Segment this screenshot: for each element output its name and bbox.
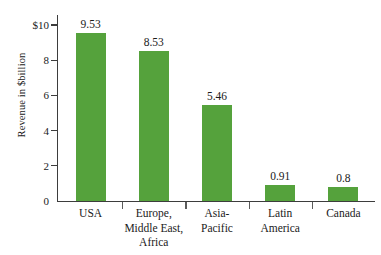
bar-value-label: 0.8 xyxy=(313,172,373,184)
bar xyxy=(265,185,295,201)
y-axis-tick-label: $10 xyxy=(3,20,49,31)
x-axis-category-label: USA xyxy=(59,206,122,221)
y-axis-line xyxy=(57,15,58,202)
bar-value-label: 8.53 xyxy=(124,36,184,48)
y-axis-tick-label: 0 xyxy=(3,196,49,207)
y-axis-tick xyxy=(51,60,57,61)
x-axis-category-label: Europe, Middle East, Africa xyxy=(122,206,185,250)
y-axis-tick xyxy=(51,165,57,166)
bar xyxy=(76,33,106,201)
bar xyxy=(139,51,169,201)
x-axis-category-label: Asia- Pacific xyxy=(185,206,248,235)
y-axis-tick-label: 2 xyxy=(3,160,49,171)
bar-value-label: 9.53 xyxy=(61,18,121,30)
y-axis-tick-label: 4 xyxy=(3,125,49,136)
bar-value-label: 5.46 xyxy=(187,90,247,102)
bar xyxy=(328,187,358,201)
bar-chart: Revenue in $billion $1086420 9.538.535.4… xyxy=(0,0,381,255)
y-axis-tick-label: 8 xyxy=(3,55,49,66)
y-axis-tick xyxy=(51,24,57,25)
x-axis-category-label: Latin America xyxy=(249,206,312,235)
y-axis-tick xyxy=(51,95,57,96)
bar xyxy=(202,105,232,201)
x-axis-category-label: Canada xyxy=(312,206,375,221)
bar-value-label: 0.91 xyxy=(250,170,310,182)
y-axis-tick xyxy=(51,130,57,131)
y-axis-tick-label: 6 xyxy=(3,90,49,101)
